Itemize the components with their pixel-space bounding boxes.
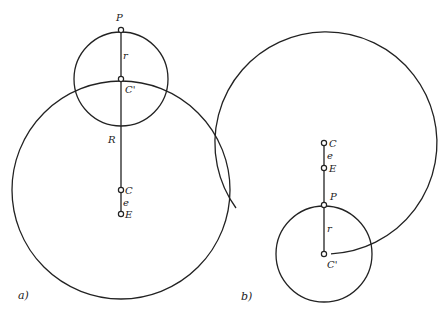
label-E-b: E [328,163,337,174]
label-r-a: r [123,50,129,61]
diagram: P r C' R C e E a) C e E P r C' b) [0,0,441,317]
label-e-a: e [123,197,129,208]
panel-label-a: a) [18,289,29,302]
label-p-a: P [115,12,123,23]
point-cprime-a [118,76,123,81]
point-e-a [118,211,123,216]
point-c-b [321,140,326,145]
panel-b: C e E P r C' b) [215,32,437,303]
label-E-a: E [124,209,133,220]
label-R-a: R [107,134,116,145]
point-p-a [118,27,123,32]
label-c-a: C [125,185,133,196]
label-cprime-b: C' [327,259,337,270]
point-cprime-b [321,251,326,256]
point-c-a [118,187,123,192]
panel-label-b: b) [241,290,252,303]
label-e-b: e [327,150,333,161]
label-cprime-a: C' [125,84,135,95]
panel-a: P r C' R C e E a) [12,12,230,302]
point-p-b [321,202,326,207]
label-c-b: C [329,138,337,149]
label-r-b: r [327,223,333,234]
label-p-b: P [329,191,337,202]
point-e-b [321,165,326,170]
